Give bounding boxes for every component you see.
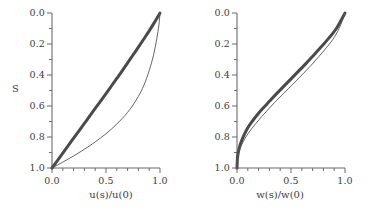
x-axis-title-left: u(s)/u(0) bbox=[36, 190, 186, 200]
figure-container: 0.00.20.40.60.81.0 0.00.51.0 S u(s)/u(0)… bbox=[0, 0, 369, 215]
x-tick-label: 0.0 bbox=[221, 176, 253, 186]
y-tick-label: 0.8 bbox=[12, 132, 45, 142]
chart-panel-right: 0.00.20.40.60.81.0 0.00.51.0 w(s)/w(0) bbox=[185, 0, 369, 215]
x-tick-label: 0.5 bbox=[275, 176, 307, 186]
y-axis-title-left: S bbox=[12, 84, 19, 94]
y-tick-label: 0.4 bbox=[12, 70, 45, 80]
x-tick-label: 1.0 bbox=[144, 176, 176, 186]
y-tick-label: 0.6 bbox=[197, 101, 230, 111]
y-tick-label: 0.0 bbox=[197, 8, 230, 18]
y-tick-label: 0.0 bbox=[12, 8, 45, 18]
y-tick-label: 1.0 bbox=[12, 163, 45, 173]
y-tick-label: 0.2 bbox=[12, 39, 45, 49]
chart-panel-left: 0.00.20.40.60.81.0 0.00.51.0 S u(s)/u(0) bbox=[0, 0, 184, 215]
series-thick-curve bbox=[52, 13, 160, 168]
y-tick-label: 0.2 bbox=[197, 39, 230, 49]
series-thick-curve bbox=[237, 13, 345, 168]
y-tick-label: 0.8 bbox=[197, 132, 230, 142]
x-tick-label: 1.0 bbox=[329, 176, 361, 186]
y-tick-label: 1.0 bbox=[197, 163, 230, 173]
y-tick-label: 0.6 bbox=[12, 101, 45, 111]
y-tick-label: 0.4 bbox=[197, 70, 230, 80]
x-axis-title-right: w(s)/w(0) bbox=[205, 190, 355, 200]
x-tick-label: 0.0 bbox=[36, 176, 68, 186]
x-tick-label: 0.5 bbox=[90, 176, 122, 186]
